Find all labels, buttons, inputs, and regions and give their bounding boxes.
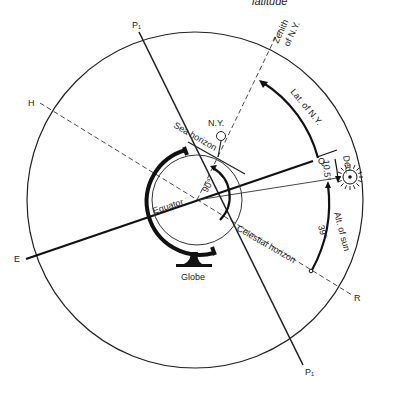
sun-ray-line bbox=[197, 178, 337, 200]
globe-meridian-cap-bottom bbox=[212, 247, 215, 255]
label-celestial-horizon: Celestial horizon bbox=[235, 223, 298, 265]
alt-sun-arrow-icon bbox=[325, 181, 331, 188]
alt-sun-end-dot bbox=[309, 269, 313, 273]
label-dec: Dec. bbox=[341, 155, 354, 175]
ny-pin-icon bbox=[217, 132, 226, 141]
label-ny: N.Y. bbox=[208, 118, 224, 128]
label-alt-value: 39° bbox=[316, 224, 329, 240]
label-equator: Equator bbox=[152, 197, 185, 216]
label-h: H bbox=[28, 98, 35, 108]
celestial-sphere-diagram: latitude P₁ P₁ H E Q R N.Y. Zenith of N.… bbox=[0, 0, 407, 395]
label-p-bottom: P₁ bbox=[305, 367, 314, 377]
label-r: R bbox=[354, 293, 361, 303]
label-dec-value: 10.5° bbox=[321, 159, 333, 181]
celestial-sphere-circle bbox=[27, 32, 363, 368]
label-angle-90: 90° bbox=[200, 177, 216, 194]
title-partial: latitude bbox=[252, 0, 287, 7]
label-p-top: P₁ bbox=[132, 20, 141, 30]
label-e: E bbox=[14, 254, 20, 264]
label-globe: Globe bbox=[181, 272, 205, 282]
globe-meridian-cap-top bbox=[184, 147, 187, 155]
label-lat-ny: Lat. of N.Y. bbox=[288, 87, 324, 127]
label-alt-sun: Alt. of sun bbox=[332, 211, 352, 252]
polar-axis-line bbox=[139, 32, 303, 365]
